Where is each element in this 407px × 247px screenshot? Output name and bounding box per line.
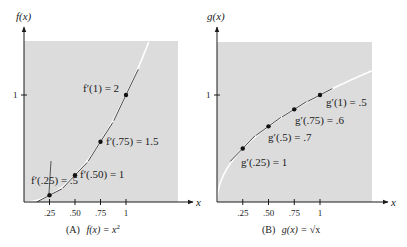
point-label-b-0: g′(.25) = 1 bbox=[241, 156, 287, 169]
data-point bbox=[98, 140, 102, 144]
x-tick-label: 1 bbox=[318, 208, 323, 218]
x-tick-label: .75 bbox=[95, 208, 107, 218]
caption-a: (A) f(x) = x2 bbox=[66, 223, 120, 236]
x-axis-label-a: x bbox=[195, 196, 201, 208]
point-label-a-0: f′(.25) = .5 bbox=[31, 174, 79, 187]
data-point bbox=[266, 124, 270, 128]
y-axis-label-a: f(x) bbox=[16, 10, 32, 23]
data-point bbox=[124, 93, 128, 97]
x-tick-label: .75 bbox=[289, 208, 301, 218]
figure: f(x) x .25.50.751 1 f′(.25) = .5 f′(.50)… bbox=[0, 0, 407, 247]
point-label-a-2: f′(.75) = 1.5 bbox=[106, 135, 159, 148]
point-label-b-1: g′(.5) = .7 bbox=[268, 131, 312, 144]
data-point bbox=[292, 107, 296, 111]
point-label-b-3: g′(1) = .5 bbox=[326, 96, 367, 109]
y-tick-label-a: 1 bbox=[13, 90, 18, 100]
x-tick-label: .25 bbox=[237, 208, 249, 218]
x-tick-label: .50 bbox=[69, 208, 81, 218]
x-tick-label: .50 bbox=[263, 208, 275, 218]
x-axis-label-b: x bbox=[390, 196, 396, 208]
x-tick-label: .25 bbox=[44, 208, 56, 218]
data-point bbox=[47, 193, 51, 197]
point-label-a-1: f′(.50) = 1 bbox=[80, 168, 124, 181]
caption-b: (B) g(x) = √x bbox=[262, 224, 320, 236]
data-point bbox=[241, 146, 245, 150]
y-tick-label-b: 1 bbox=[206, 90, 211, 100]
panel-a: f(x) x .25.50.751 1 f′(.25) = .5 f′(.50)… bbox=[13, 10, 201, 236]
y-axis-label-b: g(x) bbox=[207, 10, 225, 23]
data-point bbox=[318, 93, 322, 97]
x-tick-label: 1 bbox=[124, 208, 129, 218]
point-label-a-3: f′(1) = 2 bbox=[83, 82, 119, 95]
panel-b: g(x) x .25.50.751 1 g′(.25) = 1 g′(.5) =… bbox=[206, 10, 396, 236]
point-label-b-2: g′(.75) = .6 bbox=[295, 114, 344, 127]
